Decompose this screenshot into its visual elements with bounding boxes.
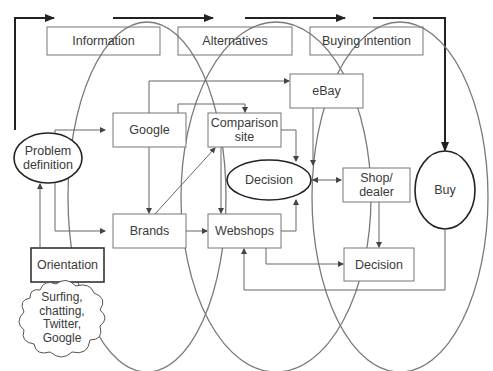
node-label-brands: Brands bbox=[113, 214, 186, 248]
node-label-shop-dealer: Shop/ dealer bbox=[343, 168, 410, 202]
comparison-line1: Comparison bbox=[211, 116, 278, 130]
node-label-ebay: eBay bbox=[290, 74, 363, 108]
stage-label-information: Information bbox=[47, 27, 160, 55]
node-label-webshops: Webshops bbox=[208, 214, 281, 248]
cloud-line3: Twitter, bbox=[43, 318, 81, 332]
node-label-comparison-site: Comparison site bbox=[208, 113, 281, 147]
node-label-problem-definition: Problem definition bbox=[14, 133, 82, 183]
node-label-decision-center: Decision bbox=[227, 160, 311, 200]
shop-line1: Shop/ bbox=[360, 171, 393, 185]
shop-line2: dealer bbox=[359, 185, 394, 199]
cloud-line2: chatting, bbox=[39, 305, 84, 319]
problem-line1: Problem bbox=[25, 144, 72, 158]
problem-line2: definition bbox=[23, 158, 73, 172]
node-label-buy: Buy bbox=[415, 151, 475, 229]
node-label-orientation: Orientation bbox=[31, 248, 104, 282]
comparison-line2: site bbox=[235, 130, 254, 144]
stage-label-buying-intention: Buying intention bbox=[310, 27, 423, 55]
cloud-line1: Surfing, bbox=[41, 291, 82, 305]
node-label-google: Google bbox=[113, 113, 186, 147]
cloud-line4: Google bbox=[43, 332, 82, 346]
cloud-label: Surfing, chatting, Twitter, Google bbox=[24, 286, 100, 350]
stage-label-alternatives: Alternatives bbox=[178, 27, 292, 55]
node-label-decision-lower: Decision bbox=[344, 248, 414, 281]
